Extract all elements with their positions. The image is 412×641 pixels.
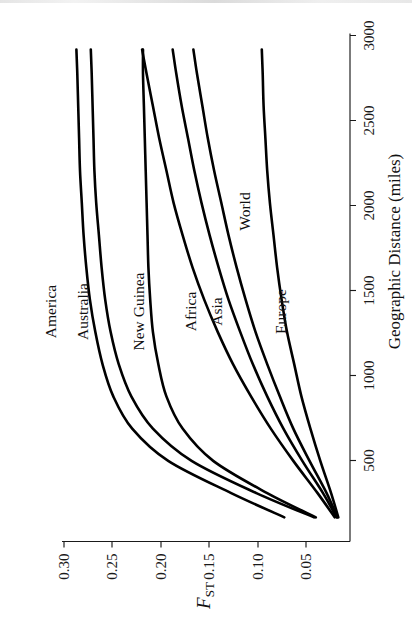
- y-tick-label: 0.15: [201, 553, 217, 579]
- x-axis-title: Geographic Distance (miles): [385, 153, 404, 348]
- series-curves: [76, 49, 338, 517]
- x-axis-tick-labels: 500 1000 1500 2000 2500 3000: [361, 20, 377, 471]
- curve-australia: [91, 49, 314, 517]
- series-label-australia: Australia: [74, 282, 91, 339]
- rotated-plot-container: 500 1000 1500 2000 2500 3000 Geographic …: [0, 0, 412, 641]
- series-label-world: World: [236, 192, 253, 231]
- series-label-africa: Africa: [182, 291, 199, 331]
- series-label-new-guinea: New Guinea: [130, 272, 147, 350]
- chart-svg: 500 1000 1500 2000 2500 3000 Geographic …: [0, 0, 412, 641]
- x-tick-label: 500: [361, 449, 377, 472]
- y-axis-title-subscript: ST: [202, 582, 217, 597]
- series-label-asia: Asia: [208, 297, 225, 326]
- x-axis-ticks: [350, 35, 356, 460]
- y-axis-title-base: F: [193, 596, 214, 609]
- y-tick-label: 0.25: [104, 553, 120, 579]
- y-axis-tick-labels: 0.05 0.10 0.15 0.20 0.25 0.30: [56, 553, 314, 579]
- series-label-europe: Europe: [272, 289, 289, 334]
- y-tick-label: 0.20: [153, 553, 169, 579]
- x-tick-label: 3000: [361, 20, 377, 50]
- x-tick-label: 1500: [361, 275, 377, 305]
- y-tick-label: 0.30: [56, 553, 72, 579]
- series-label-america: America: [42, 284, 59, 337]
- series-labels: America Australia New Guinea Africa Asia…: [42, 192, 289, 350]
- y-axis-title: FST: [193, 582, 217, 610]
- curve-america: [76, 49, 284, 517]
- svg-text:FST: FST: [193, 582, 217, 610]
- x-tick-label: 2500: [361, 105, 377, 135]
- x-tick-label: 1000: [361, 360, 377, 390]
- y-tick-label: 0.10: [250, 553, 266, 579]
- y-tick-label: 0.05: [298, 553, 314, 579]
- figure-canvas: 500 1000 1500 2000 2500 3000 Geographic …: [0, 0, 412, 641]
- curve-new-guinea: [143, 49, 316, 517]
- curve-europe: [262, 49, 339, 517]
- x-tick-label: 2000: [361, 190, 377, 220]
